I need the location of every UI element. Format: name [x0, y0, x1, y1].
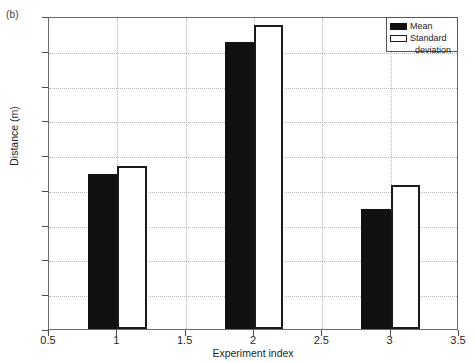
panel-label: (b): [6, 9, 19, 20]
y-axis-label: Distance (m): [8, 76, 20, 196]
legend-swatch-mean-icon: [390, 23, 407, 30]
plot-area: [48, 17, 458, 330]
bar-std-1: [117, 166, 146, 329]
figure-panel-b: (b) Distance (m) Experiment index 012345…: [0, 0, 475, 362]
gridline-vertical: [322, 18, 323, 329]
legend-item-mean: Mean: [390, 21, 455, 32]
legend-label-mean: Mean: [410, 21, 433, 32]
legend: Mean Standard deviation: [386, 17, 458, 52]
x-axis-label: Experiment index: [48, 347, 458, 359]
legend-label-std: Standard: [410, 33, 447, 44]
bar-std-2: [254, 25, 283, 329]
bar-mean-1: [88, 174, 117, 329]
legend-label-std-line2: deviation: [415, 45, 455, 56]
legend-swatch-std-icon: [390, 35, 407, 42]
x-tick-label: 2.5: [299, 334, 343, 346]
bar-mean-3: [361, 209, 390, 329]
bar-mean-2: [225, 42, 254, 329]
gridline-vertical: [186, 18, 187, 329]
x-tick-label: 1: [94, 334, 138, 346]
x-tick-label: 3.5: [436, 334, 475, 346]
x-tick-label: 2: [231, 334, 275, 346]
x-tick-label: 1.5: [163, 334, 207, 346]
x-tick-label: 3: [368, 334, 412, 346]
bar-std-3: [391, 185, 420, 329]
legend-item-std: Standard: [390, 33, 455, 44]
x-tick-label: 0.5: [26, 334, 70, 346]
